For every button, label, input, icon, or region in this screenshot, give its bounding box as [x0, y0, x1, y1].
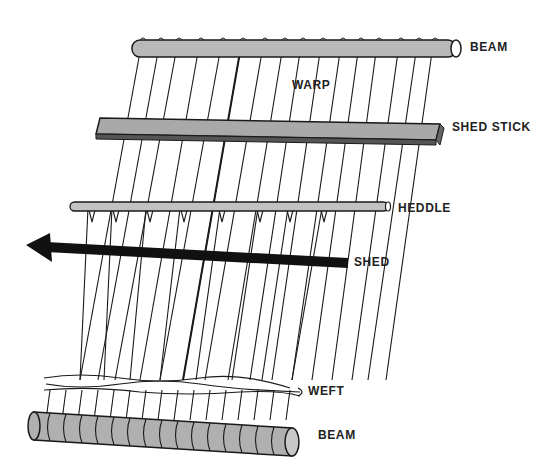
loom-diagram	[0, 0, 554, 470]
label-weft: WEFT	[308, 384, 344, 398]
weft	[44, 375, 302, 396]
shed-stick	[96, 118, 444, 145]
shed-arrow	[26, 233, 348, 268]
warp-threads	[46, 52, 432, 420]
label-top-beam: BEAM	[470, 40, 508, 54]
top-beam	[132, 38, 461, 57]
bottom-beam	[28, 412, 299, 456]
label-warp: WARP	[292, 78, 330, 92]
label-bottom-beam: BEAM	[318, 428, 356, 442]
label-shed: SHED	[354, 255, 390, 269]
label-shed-stick: SHED STICK	[452, 120, 531, 134]
label-heddle: HEDDLE	[398, 201, 451, 215]
heddle-rod	[70, 202, 391, 211]
